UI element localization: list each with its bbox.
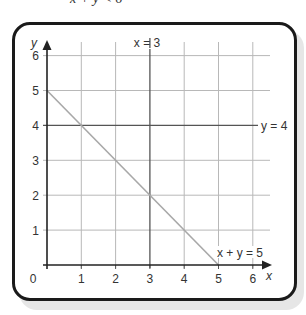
chart-plot: 1 2 3 4 5 6 0 1 2 3 4 5 6 x y x = 3 y = … (0, 0, 306, 315)
y-tick-3: 3 (32, 154, 39, 168)
annotation-x-plus-y-equals-5: x + y = 5 (217, 246, 263, 260)
annotation-y-equals-4: y = 4 (261, 119, 288, 133)
x-tick-1: 1 (78, 272, 85, 286)
y-tick-labels: 1 2 3 4 5 6 (32, 49, 39, 238)
origin-label: 0 (30, 272, 37, 286)
vertical-gridlines (81, 42, 253, 268)
x-axis-label: x (265, 269, 273, 283)
y-tick-2: 2 (32, 189, 39, 203)
annotation-x-equals-3: x = 3 (134, 36, 161, 50)
y-tick-1: 1 (32, 224, 39, 238)
x-tick-5: 5 (215, 272, 222, 286)
horizontal-gridlines (43, 56, 270, 231)
x-tick-6: 6 (249, 272, 256, 286)
x-tick-labels: 0 1 2 3 4 5 6 (30, 272, 257, 286)
y-axis-arrow-icon (43, 40, 52, 50)
x-tick-4: 4 (181, 272, 188, 286)
y-tick-4: 4 (32, 119, 39, 133)
y-axis-label: y (30, 36, 38, 50)
y-tick-5: 5 (32, 84, 39, 98)
line-x-plus-y-equals-5 (47, 91, 219, 266)
x-tick-2: 2 (112, 272, 119, 286)
x-tick-3: 3 (147, 272, 154, 286)
y-tick-6: 6 (32, 49, 39, 63)
